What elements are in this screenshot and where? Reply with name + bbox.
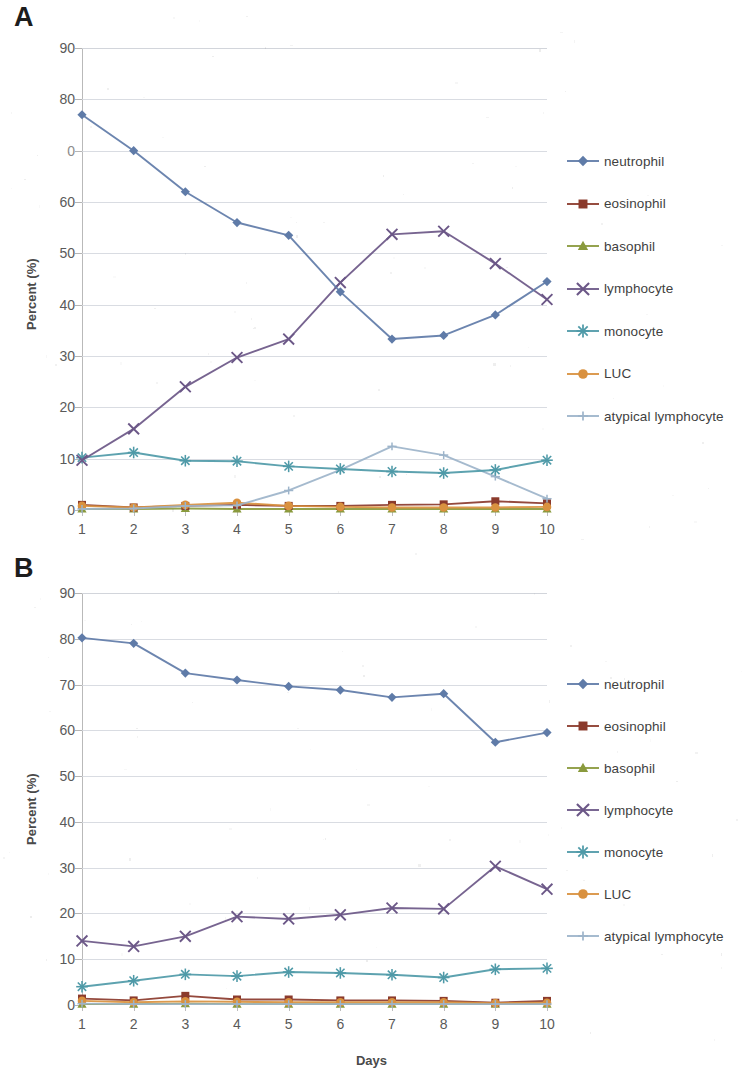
y-tick-label: 0 (67, 143, 75, 159)
x-axis-title: Days (0, 1053, 743, 1068)
neutrophil-marker-icon (566, 152, 600, 170)
legend-label: eosinophil (604, 196, 666, 211)
y-tick-mark (75, 253, 82, 254)
y-tick-mark (75, 48, 82, 49)
legend-item-basophil[interactable]: basophil (566, 759, 655, 777)
y-tick-mark (75, 407, 82, 408)
eosinophil-marker-icon (566, 195, 600, 213)
panel-b-plot-area: 908070605040302010012345678910 (82, 593, 547, 1005)
legend-item-atypical-lymphocyte[interactable]: atypical lymphocyte (566, 927, 724, 945)
legend-label: LUC (604, 366, 631, 381)
panel-b-y-axis-title: Percent (%) (24, 773, 39, 845)
y-tick-label: 0 (67, 997, 75, 1013)
x-tick-label: 6 (336, 521, 344, 537)
y-tick-mark (75, 959, 82, 960)
y-tick-label: 60 (59, 722, 75, 738)
y-tick-label: 50 (59, 768, 75, 784)
legend-label: atypical lymphocyte (604, 929, 724, 944)
x-tick-label: 4 (233, 521, 241, 537)
y-tick-label: 10 (59, 951, 75, 967)
panel-b-letter: B (14, 553, 34, 584)
y-tick-label: 60 (59, 194, 75, 210)
y-tick-mark (75, 822, 82, 823)
series-atypical-lymphocyte (77, 1000, 551, 1008)
y-tick-label: 50 (59, 245, 75, 261)
series-lymphocyte (77, 226, 553, 466)
series-monocyte (76, 447, 553, 479)
legend-item-basophil[interactable]: basophil (566, 237, 655, 255)
y-tick-label: 20 (59, 399, 75, 415)
legend-label: atypical lymphocyte (604, 409, 724, 424)
legend-label: monocyte (604, 845, 663, 860)
monocyte-marker-icon (566, 322, 600, 340)
y-tick-label: 90 (59, 40, 75, 56)
y-tick-mark (75, 151, 82, 152)
legend-item-LUC[interactable]: LUC (566, 365, 631, 383)
eosinophil-marker-icon (566, 717, 600, 735)
series-neutrophil (77, 633, 551, 747)
series-lymphocyte (77, 861, 553, 952)
LUC-marker-icon (566, 885, 600, 903)
legend-item-eosinophil[interactable]: eosinophil (566, 195, 666, 213)
x-tick-label: 4 (233, 1016, 241, 1032)
x-tick-label: 10 (539, 1016, 555, 1032)
x-tick-label: 10 (539, 521, 555, 537)
lymphocyte-marker-icon (566, 801, 600, 819)
basophil-marker-icon (566, 237, 600, 255)
panel-a: A Percent (%) 90800605040302010012345678… (0, 0, 743, 545)
legend-item-monocyte[interactable]: monocyte (566, 322, 663, 340)
basophil-marker-icon (566, 759, 600, 777)
y-tick-label: 80 (59, 631, 75, 647)
x-tick-label: 7 (388, 521, 396, 537)
legend-item-neutrophil[interactable]: neutrophil (566, 152, 664, 170)
legend-item-lymphocyte[interactable]: lymphocyte (566, 801, 673, 819)
series-neutrophil (77, 110, 551, 344)
series-monocyte (76, 963, 553, 993)
lymphocyte-marker-icon (566, 280, 600, 298)
legend-item-eosinophil[interactable]: eosinophil (566, 717, 666, 735)
legend-item-LUC[interactable]: LUC (566, 885, 631, 903)
legend-item-neutrophil[interactable]: neutrophil (566, 675, 664, 693)
series-layer (82, 48, 547, 510)
panel-a-y-axis-title: Percent (%) (24, 258, 39, 330)
x-tick-label: 3 (181, 1016, 189, 1032)
x-tick-label: 6 (336, 1016, 344, 1032)
legend-label: neutrophil (604, 154, 664, 169)
x-tick-label: 9 (491, 1016, 499, 1032)
y-tick-label: 40 (59, 814, 75, 830)
legend-label: eosinophil (604, 719, 666, 734)
y-tick-mark (75, 202, 82, 203)
legend-label: lymphocyte (604, 281, 673, 296)
x-tick-label: 2 (130, 521, 138, 537)
legend-label: LUC (604, 887, 631, 902)
legend-label: neutrophil (604, 677, 664, 692)
atypical-lymphocyte-marker-icon (566, 407, 600, 425)
x-tick-label: 5 (285, 1016, 293, 1032)
x-tick-label: 8 (440, 1016, 448, 1032)
y-tick-mark (75, 868, 82, 869)
panel-a-letter: A (14, 2, 34, 33)
legend-item-monocyte[interactable]: monocyte (566, 843, 663, 861)
monocyte-marker-icon (566, 843, 600, 861)
legend-item-lymphocyte[interactable]: lymphocyte (566, 280, 673, 298)
legend-item-atypical-lymphocyte[interactable]: atypical lymphocyte (566, 407, 724, 425)
x-tick-label: 7 (388, 1016, 396, 1032)
y-tick-label: 20 (59, 905, 75, 921)
y-tick-mark (75, 730, 82, 731)
x-tick-label: 5 (285, 521, 293, 537)
y-tick-label: 30 (59, 860, 75, 876)
y-tick-mark (75, 913, 82, 914)
y-tick-label: 30 (59, 348, 75, 364)
neutrophil-marker-icon (566, 675, 600, 693)
panel-b: B Percent (%) 90807060504030201001234567… (0, 545, 743, 1040)
y-tick-mark (75, 776, 82, 777)
x-tick-label: 2 (130, 1016, 138, 1032)
panel-a-plot-area: 90800605040302010012345678910 (82, 48, 547, 510)
atypical-lymphocyte-marker-icon (566, 927, 600, 945)
y-tick-mark (75, 305, 82, 306)
legend-label: lymphocyte (604, 803, 673, 818)
legend-label: basophil (604, 239, 655, 254)
y-tick-mark (75, 356, 82, 357)
y-tick-label: 70 (59, 677, 75, 693)
